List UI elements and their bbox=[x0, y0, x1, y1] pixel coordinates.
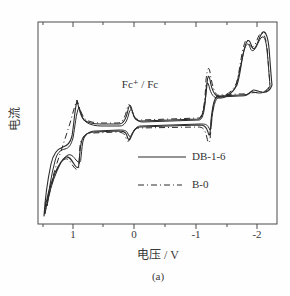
trace-DB-1-6-inner bbox=[47, 37, 270, 206]
x-tick-label-neg2: -2 bbox=[245, 228, 269, 240]
x-axis-title: 电压 / V bbox=[118, 245, 198, 263]
x-tick-label-0: 0 bbox=[122, 228, 146, 240]
cv-figure: 1 0 -1 -2 电流 电压 / V Fc⁺ / Fc DB-1-6 B-0 … bbox=[0, 0, 290, 296]
x-tick-label-1: 1 bbox=[61, 228, 85, 240]
x-tick-label-neg1: -1 bbox=[184, 228, 208, 240]
trace-B-0 bbox=[45, 33, 270, 214]
legend-label-B-0: B-0 bbox=[192, 178, 209, 190]
y-axis-title: 电流 bbox=[5, 99, 23, 139]
subfigure-caption: (a) bbox=[126, 270, 190, 282]
x-axis-ticks-top bbox=[43, 22, 257, 27]
trace-DB-1-6-outer bbox=[44, 32, 272, 216]
ferrocene-annotation: Fc⁺ / Fc bbox=[108, 78, 172, 91]
legend-label-DB-1-6: DB-1-6 bbox=[192, 150, 226, 162]
